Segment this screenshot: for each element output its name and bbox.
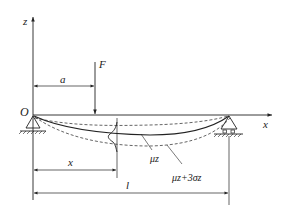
mean-curve-label: μz bbox=[149, 153, 159, 164]
origin-label: O bbox=[20, 105, 29, 119]
diagram-canvas: z x O F a x l μz μz+3σz bbox=[0, 0, 287, 218]
leader-upper bbox=[167, 145, 182, 164]
x-axis-label: x bbox=[262, 118, 268, 130]
z-axis-label: z bbox=[22, 15, 28, 27]
force-label: F bbox=[98, 58, 106, 70]
dim-a-label: a bbox=[60, 73, 66, 85]
normal-distribution-curve bbox=[108, 122, 117, 152]
dim-l-label: l bbox=[126, 179, 129, 191]
beam-deflection-diagram: z x O F a x l μz μz+3σz bbox=[0, 0, 287, 218]
roller-support bbox=[214, 116, 243, 137]
lower-bound-curve bbox=[35, 116, 228, 125]
upper-curve-label: μz+3σz bbox=[171, 172, 202, 183]
leader-mean bbox=[141, 134, 152, 150]
dim-x-label: x bbox=[67, 156, 73, 168]
